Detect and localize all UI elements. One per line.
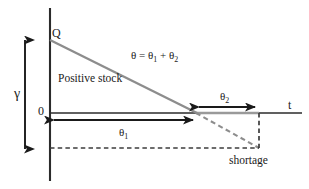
shortage-label: shortage [229,155,268,167]
inventory-shortage-diagram: Q γ 0 t θ = θ1 + θ2 Positive stock θ1 θ2… [0,0,309,189]
equation-theta: θ [131,49,136,61]
equation-sub2: 2 [174,55,178,64]
gamma-label: γ [14,87,20,101]
origin-label: 0 [38,105,44,117]
theta1-label: θ1 [119,127,128,141]
positive-stock-label: Positive stock [58,73,122,85]
equation-equals: = [139,49,145,61]
theta1-subscript: 1 [124,132,128,141]
shortage-accumulation-line [196,113,259,148]
theta-equation-label: θ = θ1 + θ2 [131,50,178,64]
equation-sub1: 1 [153,55,157,64]
initial-stock-label: Q [52,27,61,39]
equation-plus: + [160,49,166,61]
time-axis-label: t [288,99,291,111]
theta2-subscript: 2 [225,96,229,105]
theta2-label: θ2 [220,91,229,105]
